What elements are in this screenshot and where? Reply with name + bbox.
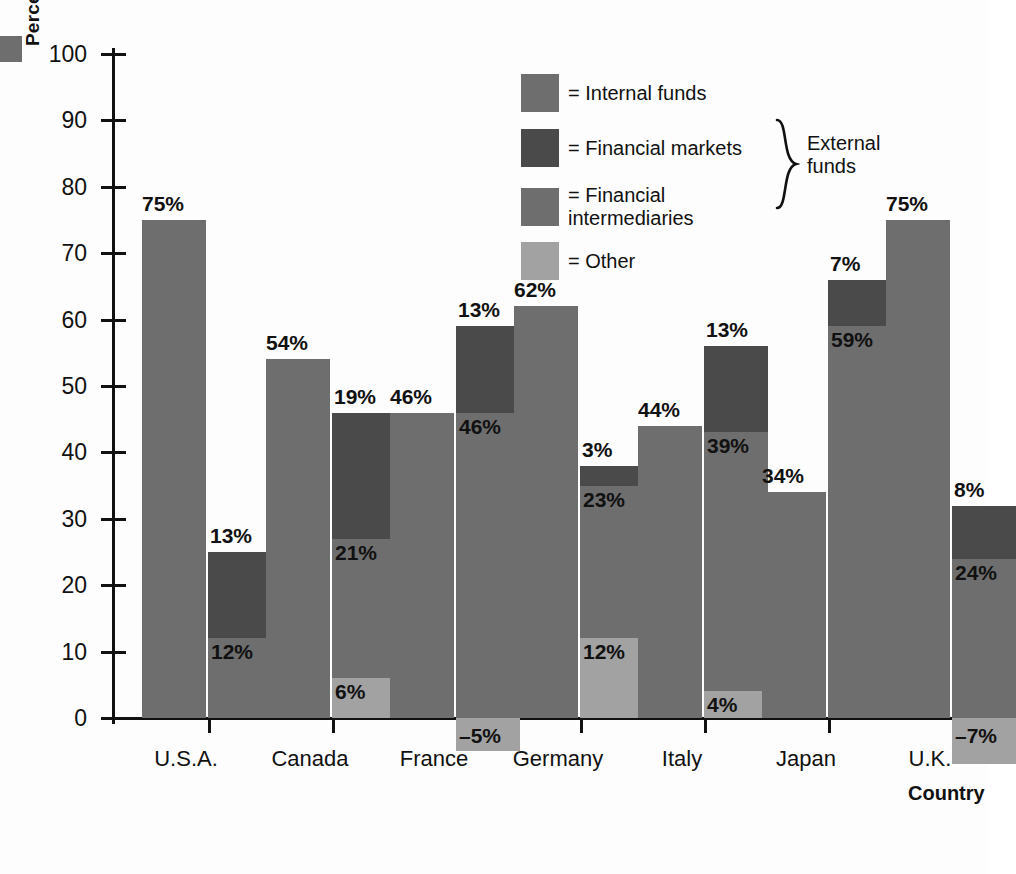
value-label-financial-markets: 13% <box>458 298 500 322</box>
y-tick-50: 50 <box>101 385 126 388</box>
segment-financial-markets <box>828 280 892 326</box>
x-category-label-germany: Germany <box>498 746 618 772</box>
value-label-internal-funds: 75% <box>886 192 928 216</box>
value-label-financial-markets: 19% <box>334 385 376 409</box>
y-tick-label-70: 70 <box>27 240 87 267</box>
y-tick-0: 0 <box>101 717 126 720</box>
x-axis-title: Country <box>908 782 985 805</box>
value-label-internal-funds: 44% <box>638 398 680 422</box>
value-label-financial-intermediaries: 46% <box>459 415 501 439</box>
y-tick-100: 100 <box>101 53 126 56</box>
value-label-internal-funds: 75% <box>142 192 184 216</box>
legend-item-0: = Internal funds <box>521 74 706 112</box>
y-tick-30: 30 <box>101 518 126 521</box>
bar-internal-funds <box>762 492 826 718</box>
bar-internal-funds <box>390 413 454 718</box>
bar-internal-funds <box>266 359 330 718</box>
value-label-other: 4% <box>707 693 737 717</box>
y-tick-60: 60 <box>101 319 126 322</box>
value-label-financial-intermediaries: 21% <box>335 541 377 565</box>
legend-swatch-other <box>521 242 559 280</box>
value-label-financial-intermediaries: 39% <box>707 434 749 458</box>
legend-item-2: = Financialintermediaries <box>521 184 694 230</box>
value-label-financial-markets: 13% <box>706 318 748 342</box>
y-tick-label-10: 10 <box>27 639 87 666</box>
y-tick-10: 10 <box>101 651 126 654</box>
value-label-financial-intermediaries: 12% <box>211 640 253 664</box>
value-label-other: 6% <box>335 680 365 704</box>
y-tick-80: 80 <box>101 186 126 189</box>
external-funds-brace-icon <box>774 118 800 210</box>
value-label-other-negative: –7% <box>955 724 997 748</box>
y-tick-label-40: 40 <box>27 439 87 466</box>
value-label-financial-markets: 7% <box>830 252 860 276</box>
segment-financial-intermediaries <box>704 432 768 691</box>
y-tick-40: 40 <box>101 451 126 454</box>
y-tick-70: 70 <box>101 252 126 255</box>
bar-internal-funds <box>514 306 578 718</box>
legend-label-0: = Internal funds <box>568 82 706 105</box>
legend-item-1: = Financial markets <box>521 129 742 167</box>
legend-label-1: = Financial markets <box>568 137 742 160</box>
value-label-internal-funds: 54% <box>266 331 308 355</box>
y-tick-20: 20 <box>101 584 126 587</box>
y-tick-label-0: 0 <box>27 705 87 732</box>
x-category-label-canada: Canada <box>250 746 370 772</box>
x-category-label-italy: Italy <box>622 746 742 772</box>
bar-internal-funds <box>142 220 206 718</box>
value-label-financial-markets: 13% <box>210 524 252 548</box>
legend-swatch-financial-intermediaries <box>521 188 559 226</box>
legend-item-3: = Other <box>521 242 635 280</box>
value-label-internal-funds: 62% <box>514 278 556 302</box>
corner-marker-tab <box>0 36 22 62</box>
x-category-label-france: France <box>374 746 494 772</box>
x-category-label-uk: U.K. <box>870 746 990 772</box>
legend-label-2: = Financialintermediaries <box>568 184 694 230</box>
y-axis-title: Percentage of finance <box>22 0 44 46</box>
value-label-financial-intermediaries: 59% <box>831 328 873 352</box>
segment-financial-markets <box>208 552 272 638</box>
x-category-label-japan: Japan <box>746 746 866 772</box>
y-tick-90: 90 <box>101 119 126 122</box>
value-label-financial-intermediaries: 23% <box>583 488 625 512</box>
bar-internal-funds <box>886 220 950 718</box>
value-label-other: 12% <box>583 640 625 664</box>
x-category-label-usa: U.S.A. <box>126 746 246 772</box>
y-tick-label-50: 50 <box>27 373 87 400</box>
segment-financial-intermediaries <box>456 413 520 718</box>
bar-internal-funds <box>638 426 702 718</box>
segment-financial-markets <box>456 326 520 412</box>
y-tick-label-80: 80 <box>27 174 87 201</box>
y-tick-label-60: 60 <box>27 307 87 334</box>
legend-label-3: = Other <box>568 250 635 273</box>
segment-financial-markets <box>580 466 644 486</box>
segment-financial-markets <box>952 506 1016 559</box>
value-label-internal-funds: 46% <box>390 385 432 409</box>
external-funds-label: Externalfunds <box>807 132 880 178</box>
segment-financial-markets <box>332 413 396 539</box>
y-tick-label-30: 30 <box>27 506 87 533</box>
legend-swatch-financial-markets <box>521 129 559 167</box>
value-label-internal-funds: 34% <box>762 464 804 488</box>
y-tick-label-90: 90 <box>27 107 87 134</box>
value-label-other-negative: –5% <box>459 724 501 748</box>
segment-financial-intermediaries <box>828 326 892 718</box>
value-label-financial-markets: 3% <box>582 438 612 462</box>
legend-swatch-internal-funds <box>521 74 559 112</box>
value-label-financial-intermediaries: 24% <box>955 561 997 585</box>
y-tick-label-20: 20 <box>27 572 87 599</box>
segment-financial-markets <box>704 346 768 432</box>
value-label-financial-markets: 8% <box>954 478 984 502</box>
